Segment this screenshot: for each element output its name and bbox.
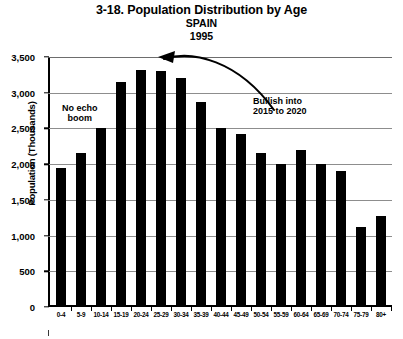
x-axis-tick-mark — [251, 307, 252, 311]
chart-subtitle: SPAIN — [0, 18, 403, 30]
bar — [216, 128, 225, 307]
x-axis-tick-label: 10-14 — [94, 311, 109, 318]
x-axis-tick-mark — [291, 307, 292, 311]
y-axis-tick-mark — [44, 306, 49, 307]
x-axis-tick-mark — [271, 307, 272, 311]
y-axis-tick-label: 2,500 — [0, 123, 35, 134]
x-axis-tick-label: 70-74 — [334, 311, 349, 318]
annotation-no-echo-line2: boom — [68, 113, 93, 123]
x-axis-tick-label: 40-44 — [214, 311, 229, 318]
annotation-no-echo-boom: No echo boom — [62, 103, 98, 123]
bar — [196, 102, 205, 307]
x-axis-tick-mark — [331, 307, 332, 311]
y-axis-tick-label: 1,500 — [0, 194, 35, 205]
x-axis-tick-mark — [171, 307, 172, 311]
x-axis-tick-label: 75-79 — [354, 311, 369, 318]
x-axis-tick-mark — [391, 307, 392, 311]
bar — [296, 150, 305, 307]
x-axis-tick-label: 45-49 — [234, 311, 249, 318]
annotation-no-echo-line1: No echo — [62, 103, 98, 113]
axis-corner-mark — [48, 330, 49, 336]
y-axis-tick-mark — [44, 56, 49, 57]
x-axis-tick-label: 0-4 — [57, 311, 65, 318]
y-axis-tick-label: 0 — [0, 302, 35, 313]
bar — [76, 153, 85, 307]
x-axis-tick-mark — [371, 307, 372, 311]
bar — [256, 153, 265, 307]
bar — [56, 168, 65, 307]
x-axis-tick-label: 60-64 — [294, 311, 309, 318]
x-axis-tick-label: 30-34 — [174, 311, 189, 318]
y-axis-tick-label: 1,000 — [0, 230, 35, 241]
bar — [376, 216, 385, 307]
y-axis-tick-mark — [44, 199, 49, 200]
x-axis-tick-label: 55-59 — [274, 311, 289, 318]
y-axis-line — [48, 57, 50, 307]
y-axis-tick-label: 500 — [0, 266, 35, 277]
curved-arrow-icon — [150, 48, 290, 118]
x-axis-tick-label: 65-69 — [314, 311, 329, 318]
bar — [136, 70, 145, 307]
y-axis-tick-label: 3,000 — [0, 87, 35, 98]
chart-figure: 3-18. Population Distribution by Age SPA… — [0, 0, 403, 339]
bar — [116, 82, 125, 307]
x-axis-tick-mark — [131, 307, 132, 311]
x-axis-tick-mark — [351, 307, 352, 311]
x-axis-tick-label: 35-39 — [194, 311, 209, 318]
x-axis-tick-label: 25-29 — [154, 311, 169, 318]
y-axis-tick-mark — [44, 235, 49, 236]
chart-title-block: 3-18. Population Distribution by Age SPA… — [0, 3, 403, 43]
x-axis-tick-mark — [231, 307, 232, 311]
x-axis-tick-mark — [111, 307, 112, 311]
y-axis-tick-mark — [44, 92, 49, 93]
y-axis-tick-mark — [44, 271, 49, 272]
x-axis-tick-label: 80+ — [376, 311, 386, 318]
x-axis-tick-label: 5-9 — [77, 311, 85, 318]
y-axis-tick-mark — [44, 163, 49, 164]
x-axis-tick-mark — [151, 307, 152, 311]
x-axis-tick-mark — [211, 307, 212, 311]
x-axis-tick-label: 50-54 — [254, 311, 269, 318]
bar — [236, 134, 245, 307]
x-axis-tick-mark — [71, 307, 72, 311]
bar — [336, 171, 345, 307]
y-axis-tick-mark — [44, 128, 49, 129]
y-axis-tick-label: 2,000 — [0, 159, 35, 170]
chart-title: 3-18. Population Distribution by Age — [0, 3, 403, 17]
bar — [96, 128, 105, 307]
bar — [276, 164, 285, 307]
x-axis-tick-mark — [91, 307, 92, 311]
bar — [356, 227, 365, 307]
x-axis-tick-label: 20-24 — [134, 311, 149, 318]
x-axis-tick-mark — [311, 307, 312, 311]
chart-year: 1995 — [0, 31, 403, 43]
y-axis-tick-label: 3,500 — [0, 52, 35, 63]
x-axis-tick-mark — [191, 307, 192, 311]
x-axis-tick-label: 15-19 — [114, 311, 129, 318]
bar — [316, 164, 325, 307]
